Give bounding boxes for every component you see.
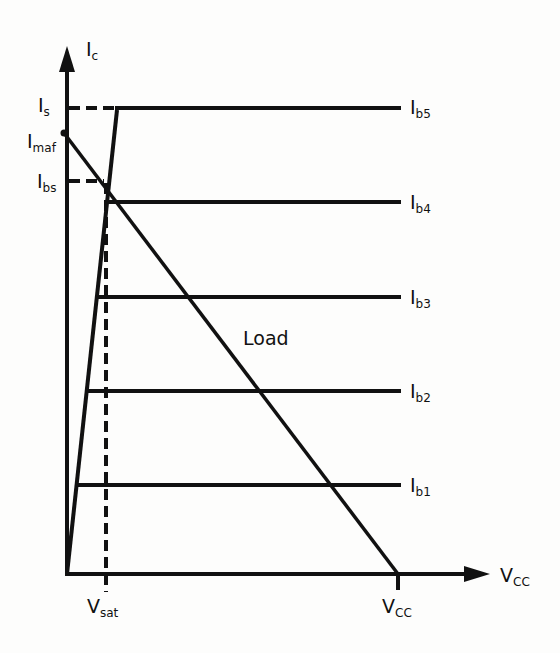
y-axis-arrow-icon: [59, 46, 75, 72]
x-axis-label: VCC: [500, 566, 530, 588]
ib1-label: Ib1: [410, 476, 431, 498]
load-line-label: Load: [243, 329, 289, 348]
load-line: [64, 133, 398, 574]
y-axis-label: Ic: [86, 40, 98, 62]
ib3-label: Ib3: [410, 288, 431, 310]
ib5-label: Ib5: [410, 98, 431, 120]
vsat-label: Vsat: [87, 597, 118, 619]
ib2-label: Ib2: [410, 382, 431, 404]
imaf-label: Imaf: [27, 132, 56, 154]
vcc-label: VCC: [382, 597, 412, 619]
x-axis-arrow-icon: [464, 566, 490, 582]
is-label: Is: [38, 96, 50, 118]
imaf-point: [61, 130, 68, 137]
ib4-label: Ib4: [410, 193, 431, 215]
ibs-label: Ibs: [37, 172, 56, 194]
